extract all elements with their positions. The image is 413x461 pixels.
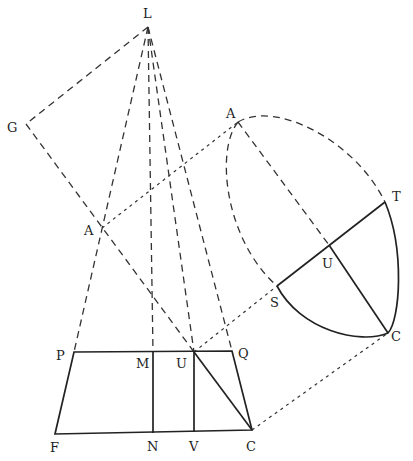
label-A-top: A <box>225 106 236 121</box>
trapezoid <box>55 351 252 434</box>
label-C-base: C <box>246 439 256 454</box>
arc-T-C-S <box>277 202 399 337</box>
label-G: G <box>7 120 17 135</box>
arc-A-S <box>226 122 277 286</box>
line-L-Q <box>148 27 232 351</box>
line-L-U <box>148 27 194 352</box>
label-V: V <box>188 439 199 454</box>
label-T: T <box>392 189 401 204</box>
line-L-P <box>74 27 148 352</box>
line-U-S <box>194 286 277 352</box>
label-F: F <box>50 440 59 455</box>
section-solid <box>277 202 399 337</box>
line-U-C <box>194 352 252 430</box>
label-A-left: A <box>83 223 94 238</box>
dotted-lines <box>102 122 388 430</box>
geometry-diagram: L G A A T U S C P M U Q F N V C <box>0 0 413 461</box>
label-M: M <box>136 356 149 371</box>
line-G-U <box>26 124 194 352</box>
label-S: S <box>270 295 279 310</box>
line-S-T <box>277 202 385 286</box>
label-P: P <box>56 348 65 363</box>
line-U-C <box>329 245 388 333</box>
projection-lines <box>26 27 232 352</box>
line-A-U <box>238 122 329 245</box>
label-Q: Q <box>238 346 249 361</box>
label-U-base: U <box>176 356 187 371</box>
label-N: N <box>147 439 158 454</box>
label-L: L <box>143 6 152 21</box>
line-C-C <box>252 333 388 430</box>
label-C-arc: C <box>391 329 401 344</box>
ellipse-dashed <box>226 116 385 286</box>
arc-A-T <box>238 116 385 202</box>
label-U-arc: U <box>322 256 333 271</box>
